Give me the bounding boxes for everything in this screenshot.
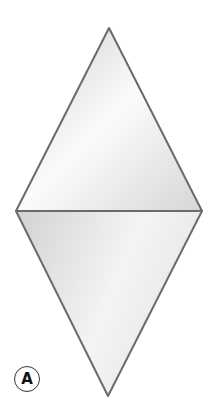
figure-label: A	[14, 366, 40, 392]
diamond-diagram	[0, 0, 221, 404]
lower-triangle	[16, 211, 202, 396]
upper-triangle	[16, 28, 202, 211]
